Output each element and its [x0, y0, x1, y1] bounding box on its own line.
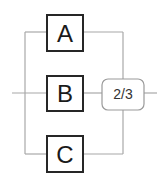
block-c: C — [47, 136, 83, 172]
block-a-label: A — [57, 20, 73, 47]
block-c-label: C — [56, 141, 73, 168]
block-a: A — [47, 15, 83, 51]
redundancy-diagram: A B C 2/3 — [0, 0, 165, 182]
block-b-label: B — [57, 80, 73, 107]
voter-label: 2/3 — [113, 86, 133, 102]
block-b: B — [47, 76, 83, 111]
voter-2-of-3: 2/3 — [102, 79, 144, 110]
